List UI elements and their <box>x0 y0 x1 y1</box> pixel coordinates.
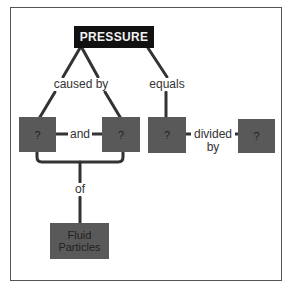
equals-link: equals <box>148 78 186 91</box>
pressure-label: PRESSURE <box>80 30 148 44</box>
and-link: and <box>68 128 92 141</box>
divided-by-link: divided by <box>191 128 235 154</box>
numerator-node: ? <box>148 117 186 153</box>
fluid-particles-node: Fluid Particles <box>50 223 109 259</box>
cause-node-1: ? <box>19 117 56 152</box>
denominator-node: ? <box>238 119 275 153</box>
caused-by-link: caused by <box>52 78 110 91</box>
cause-node-2: ? <box>102 117 140 152</box>
pressure-node: PRESSURE <box>74 26 154 48</box>
of-link: of <box>72 183 88 196</box>
